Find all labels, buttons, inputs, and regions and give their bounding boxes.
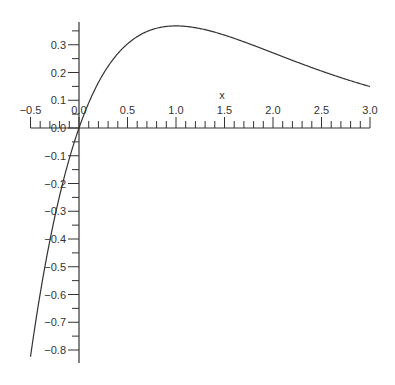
y-tick-label: −0.4 [44,233,66,245]
y-tick-label: −0.6 [44,289,66,301]
x-tick-label: 1.0 [168,104,183,116]
x-tick-label: 2.0 [265,104,280,116]
function-curve [31,26,371,357]
y-tick-label: −0.1 [44,150,66,162]
y-tick-label: 0.1 [51,94,66,106]
plot-area: −0.50.00.51.01.52.02.53.00.30.20.10.0−0.… [0,0,395,385]
y-tick-label: −0.7 [44,316,66,328]
y-tick-label: 0.3 [51,39,66,51]
y-tick-label: 0.2 [51,67,66,79]
axes: −0.50.00.51.01.52.02.53.00.30.20.10.0−0.… [20,22,378,363]
x-tick-label: 0.5 [120,104,135,116]
x-tick-label: 2.5 [314,104,329,116]
x-axis-label: x [219,89,225,101]
x-tick-label: −0.5 [20,104,42,116]
y-tick-label: −0.8 [44,344,66,356]
y-tick-label: −0.5 [44,261,66,273]
y-tick-label: 0.0 [51,122,66,134]
x-tick-label: 3.0 [362,104,377,116]
x-tick-label: 1.5 [217,104,232,116]
